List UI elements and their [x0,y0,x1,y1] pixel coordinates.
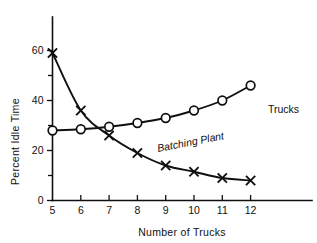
x-tick-label: 7 [106,204,112,216]
y-tick-label: 20 [32,144,44,156]
data-point-circle [105,122,114,131]
data-point-x [105,131,114,140]
data-point-circle [190,106,199,115]
y-tick-label: 60 [32,44,44,56]
x-tick-label: 5 [50,204,56,216]
x-axis-title: Number of Trucks [138,226,226,238]
data-point-circle [246,81,255,90]
x-tick-label: 9 [163,204,169,216]
data-point-x [76,106,85,115]
series-label-batching-plant: Batching Plant [156,129,226,154]
idle-time-line-chart: 0204060 56789101112 Percent Idle Time Nu… [0,0,317,243]
y-tick-label: 40 [32,94,44,106]
series-batching-plant [48,48,255,185]
y-axis-title: Percent Idle Time [9,98,21,185]
y-tick-label: 0 [38,194,44,206]
data-point-circle [77,125,86,134]
x-tick-label: 11 [217,204,228,216]
series-line [53,53,251,181]
x-axis-tick-labels: 56789101112 [50,204,257,216]
x-tick-label: 12 [245,204,257,216]
y-axis-tick-labels: 0204060 [32,44,44,206]
series-annotation-layer: TrucksBatching Plant [156,103,299,154]
data-point-circle [133,119,142,128]
x-tick-label: 10 [188,204,200,216]
data-point-circle [161,114,170,123]
data-point-circle [218,96,227,105]
chart-container: 0204060 56789101112 Percent Idle Time Nu… [0,0,317,243]
data-point-circle [48,126,57,135]
x-tick-label: 8 [134,204,140,216]
series-label-trucks: Trucks [268,103,299,115]
data-point-x [133,148,142,157]
series-layer [48,48,255,185]
x-tick-label: 6 [78,204,84,216]
x-axis-ticks [81,195,251,201]
